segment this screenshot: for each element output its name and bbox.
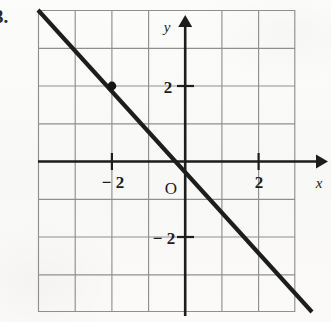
y-axis-label: y xyxy=(162,19,171,35)
y-axis-arrowhead-icon xyxy=(178,15,192,27)
marked-point-neg2-2 xyxy=(108,82,117,91)
y-tick-label-pos2: 2 xyxy=(164,78,173,97)
x-tick-label-pos2: 2 xyxy=(255,173,264,192)
coordinate-graph: y x O − 2 2 2 − 2 xyxy=(0,0,331,322)
graph-screenshot: 3. xyxy=(0,0,331,322)
x-axis xyxy=(38,155,328,169)
x-axis-arrowhead-icon xyxy=(316,155,328,169)
x-axis-label: x xyxy=(315,175,323,191)
x-tick-label-neg2: − 2 xyxy=(102,173,124,192)
y-tick-label-neg2: − 2 xyxy=(153,229,175,248)
origin-label: O xyxy=(165,179,177,198)
